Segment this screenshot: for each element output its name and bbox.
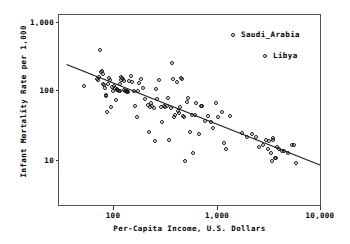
trendline — [59, 15, 320, 205]
plot-area — [58, 14, 321, 206]
data-point — [108, 78, 112, 82]
data-point — [109, 105, 113, 109]
data-point — [166, 96, 170, 100]
data-point — [175, 80, 179, 84]
data-point — [266, 147, 270, 151]
data-point — [269, 151, 273, 155]
data-point — [122, 79, 126, 83]
data-point — [245, 135, 249, 139]
data-point — [206, 114, 210, 118]
legend-label-libya: Libya — [273, 51, 298, 60]
data-point — [224, 147, 228, 151]
y-tick-label-1000: 1,000 — [14, 18, 54, 27]
legend-item-saudi-arabia[interactable]: Saudi_Arabia — [231, 30, 300, 39]
data-point — [133, 104, 137, 108]
data-point — [143, 97, 147, 101]
data-point — [185, 100, 189, 104]
data-point — [214, 101, 218, 105]
data-point — [180, 77, 184, 81]
legend-marker-icon — [263, 54, 267, 58]
data-point — [169, 106, 173, 110]
data-point — [193, 113, 197, 117]
data-point — [200, 104, 204, 108]
data-point — [126, 90, 130, 94]
x-tick-label-10000: 10,000 — [297, 211, 343, 220]
data-point — [170, 61, 174, 65]
data-point — [178, 105, 182, 109]
data-point — [250, 132, 254, 136]
legend-marker-icon — [231, 33, 235, 37]
data-point — [157, 78, 161, 82]
data-point — [139, 77, 143, 81]
data-point — [114, 98, 118, 102]
data-point — [165, 104, 169, 108]
data-point — [101, 72, 105, 76]
y-axis-label: Infant Mortality Rate per 1,000 — [19, 28, 28, 178]
data-point — [183, 159, 187, 163]
x-tick-label-1000: 1,000 — [196, 211, 238, 220]
data-point — [105, 110, 109, 114]
data-point — [261, 143, 265, 147]
y-tick-label-100: 100 — [14, 86, 54, 95]
data-point — [274, 156, 278, 160]
data-point — [286, 151, 290, 155]
data-point — [118, 89, 122, 93]
data-point — [197, 132, 201, 136]
data-point — [136, 89, 140, 93]
y-tick-label-10: 10 — [14, 156, 54, 165]
data-point — [294, 161, 298, 165]
data-point — [152, 106, 156, 110]
data-point — [147, 130, 151, 134]
legend-item-libya[interactable]: Libya — [263, 51, 298, 60]
data-point — [254, 135, 258, 139]
data-point — [141, 86, 145, 90]
data-point — [292, 143, 296, 147]
legend-label-saudi-arabia: Saudi_Arabia — [241, 30, 300, 39]
data-point — [209, 120, 213, 124]
chart-screenshot: Infant Mortality Rate per 1,000 Per-Capi… — [0, 0, 350, 244]
data-point — [211, 126, 215, 130]
x-axis-label: Per-Capita Income, U.S. Dollars — [58, 224, 321, 233]
data-point — [228, 114, 232, 118]
x-tick-label-100: 100 — [93, 211, 133, 220]
data-point — [135, 115, 139, 119]
